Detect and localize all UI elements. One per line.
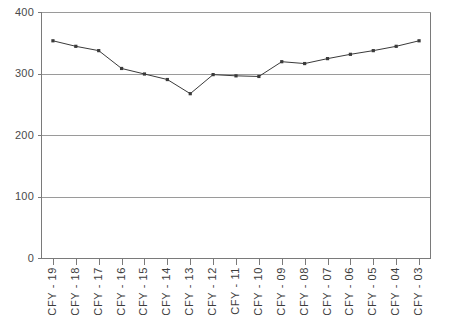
y-tick-label-0: 0 xyxy=(0,253,34,264)
data-point-marker xyxy=(74,45,77,48)
data-point-marker xyxy=(417,39,420,42)
x-tick-label-14: CFY - 05 xyxy=(367,267,378,315)
data-point-marker xyxy=(372,49,375,52)
data-point-marker xyxy=(280,60,283,63)
data-point-marker xyxy=(349,53,352,56)
x-tick-label-6: CFY - 13 xyxy=(184,267,195,315)
x-tick-label-3: CFY - 16 xyxy=(116,267,127,315)
x-tick-label-8: CFY - 11 xyxy=(230,267,241,315)
x-tick-label-13: CFY - 06 xyxy=(344,267,355,315)
x-tick-label-15: CFY - 04 xyxy=(390,267,401,315)
y-tick-label-200: 200 xyxy=(0,130,34,141)
x-tick-label-0: CFY - 19 xyxy=(47,267,58,315)
data-series-line xyxy=(53,41,419,94)
data-point-marker xyxy=(143,72,146,75)
data-point-marker xyxy=(212,73,215,76)
x-tick-label-9: CFY - 10 xyxy=(253,267,264,315)
y-tick-label-400: 400 xyxy=(0,7,34,18)
x-tick-label-16: CFY - 03 xyxy=(413,267,424,315)
data-point-marker xyxy=(257,75,260,78)
y-tick-label-100: 100 xyxy=(0,191,34,202)
x-tick-label-11: CFY - 08 xyxy=(299,267,310,315)
x-tick-label-12: CFY - 07 xyxy=(322,267,333,315)
data-point-marker xyxy=(303,62,306,65)
data-point-marker xyxy=(189,92,192,95)
data-point-marker xyxy=(51,39,54,42)
x-tick-label-5: CFY - 14 xyxy=(161,267,172,315)
data-point-marker xyxy=(234,74,237,77)
x-tick-label-7: CFY - 12 xyxy=(207,267,218,315)
data-point-marker xyxy=(120,67,123,70)
x-tick-label-1: CFY - 18 xyxy=(70,267,81,315)
data-point-marker xyxy=(97,49,100,52)
x-tick-label-4: CFY - 15 xyxy=(138,267,149,315)
data-point-marker xyxy=(395,45,398,48)
x-tick-label-10: CFY - 09 xyxy=(276,267,287,315)
data-point-marker xyxy=(326,57,329,60)
y-tick-label-300: 300 xyxy=(0,68,34,79)
data-point-marker xyxy=(166,78,169,81)
x-tick-label-2: CFY - 17 xyxy=(93,267,104,315)
